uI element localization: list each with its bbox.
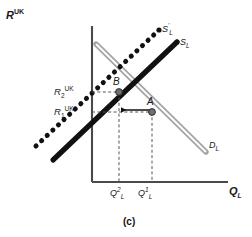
sl-prime-tip	[156, 27, 161, 32]
sl-tip	[174, 39, 179, 44]
figure-panel-c: RUK QL S'L SL DL B A R2UK R1UK Q2L Q1L (…	[0, 0, 252, 237]
curve-label-DL: DL	[209, 140, 219, 152]
y-tick-label-R2: R2UK	[54, 85, 74, 99]
point-label-B: B	[113, 76, 120, 87]
diagram-canvas	[0, 0, 252, 237]
y-axis-title: RUK	[6, 8, 24, 21]
y-tick-label-R1: R1UK	[54, 105, 74, 119]
figure-caption: (c)	[123, 216, 135, 227]
point-marker-B	[116, 89, 123, 96]
point-marker-A	[149, 109, 156, 116]
point-label-A: A	[147, 96, 154, 107]
x-axis-title: QL	[229, 185, 242, 199]
curve-label-SL: SL	[180, 37, 190, 49]
curve-label-SL-prime: S'L	[162, 22, 173, 36]
x-tick-label-Q1: Q1L	[138, 186, 152, 200]
x-tick-label-Q2: Q2L	[110, 186, 124, 200]
